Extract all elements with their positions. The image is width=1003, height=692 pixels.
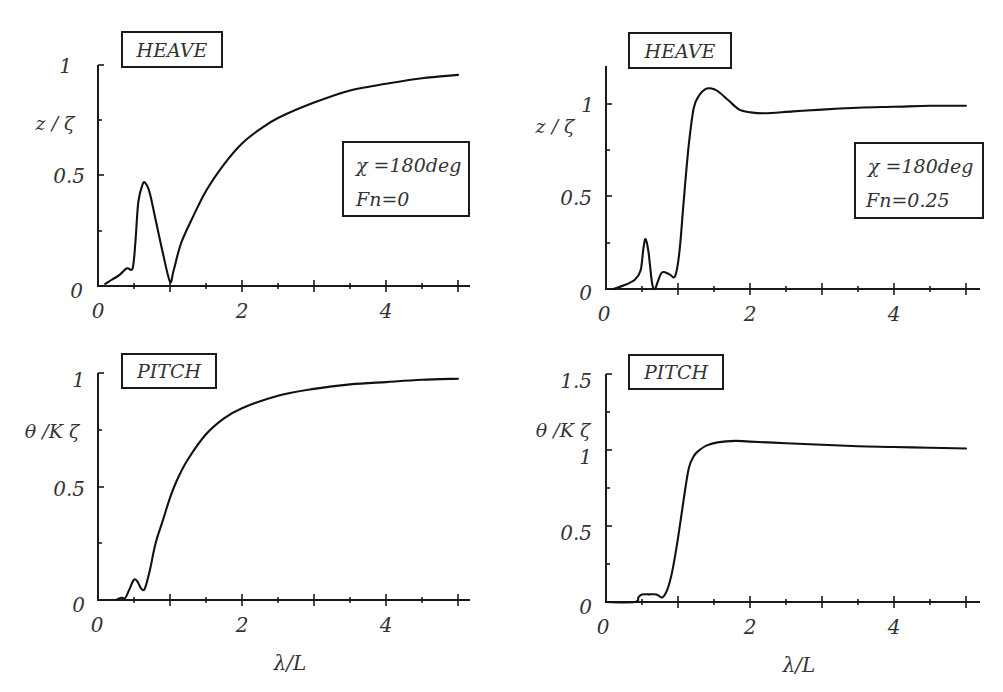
panel-pitch-fn025: 1.5 1 0.5 0 0 2 4 θ /K ζ λ/L PITCH — [536, 355, 980, 677]
x-tick-label: 4 — [379, 299, 393, 323]
figure: 1 0.5 0 0 2 4 z / ζ HEAVE χ =180deg Fn=0 — [0, 0, 1003, 692]
legend-heading-angle: χ =180deg — [866, 155, 973, 177]
y-tick-label: 0.5 — [560, 521, 592, 545]
y-tick-label: 1 — [581, 93, 594, 117]
legend-froude-number: Fn=0 — [355, 188, 409, 210]
x-axis-label: λ/L — [273, 651, 307, 675]
x-tick-label: 2 — [235, 613, 249, 637]
x-tick-label: 4 — [379, 613, 393, 637]
y-tick-label: 0 — [72, 593, 85, 617]
y-tick-label: 0 — [579, 595, 592, 619]
y-tick-label: 0.5 — [53, 477, 85, 501]
x-tick-label: 2 — [235, 299, 249, 323]
pitch-curve — [116, 379, 458, 600]
x-tick-label: 2 — [743, 302, 757, 326]
x-tick-label: 0 — [597, 615, 610, 639]
y-axis-label: θ /K ζ — [536, 419, 592, 441]
panel-heave-fn025: 1 0.5 0 0 2 4 z / ζ HEAVE χ =180deg Fn=0… — [535, 33, 983, 326]
y-axis-label: θ /K ζ — [25, 420, 81, 442]
y-axis-label: z / ζ — [535, 115, 576, 137]
y-axis-label: z / ζ — [35, 112, 76, 134]
y-tick-label: 1 — [59, 54, 72, 78]
x-tick-label: 0 — [598, 302, 611, 326]
panel-title: HEAVE — [136, 39, 208, 61]
x-tick-label: 0 — [92, 299, 105, 323]
y-tick-label: 0.5 — [560, 186, 592, 210]
pitch-curve — [606, 441, 966, 602]
y-tick-label: 1 — [579, 445, 592, 469]
panel-heave-fn0: 1 0.5 0 0 2 4 z / ζ HEAVE χ =180deg Fn=0 — [35, 32, 470, 323]
panel-pitch-fn0: 1 0.5 0 0 2 4 θ /K ζ λ/L PITCH — [25, 354, 470, 675]
x-tick-label: 4 — [887, 615, 901, 639]
panel-title: HEAVE — [644, 40, 716, 62]
y-tick-label: 1 — [72, 368, 85, 392]
x-tick-label: 0 — [91, 613, 104, 637]
x-axis-label: λ/L — [782, 653, 816, 677]
y-tick-label: 0.5 — [53, 164, 85, 188]
panel-title: PITCH — [643, 361, 709, 383]
x-tick-label: 4 — [887, 302, 901, 326]
y-tick-label: 1.5 — [560, 369, 592, 393]
x-tick-label: 2 — [743, 615, 757, 639]
y-tick-label: 0 — [579, 281, 592, 305]
panel-title: PITCH — [136, 360, 202, 382]
legend-heading-angle: χ =180deg — [354, 154, 461, 176]
y-tick-label: 0 — [70, 279, 83, 303]
legend-froude-number: Fn=0.25 — [865, 189, 950, 211]
